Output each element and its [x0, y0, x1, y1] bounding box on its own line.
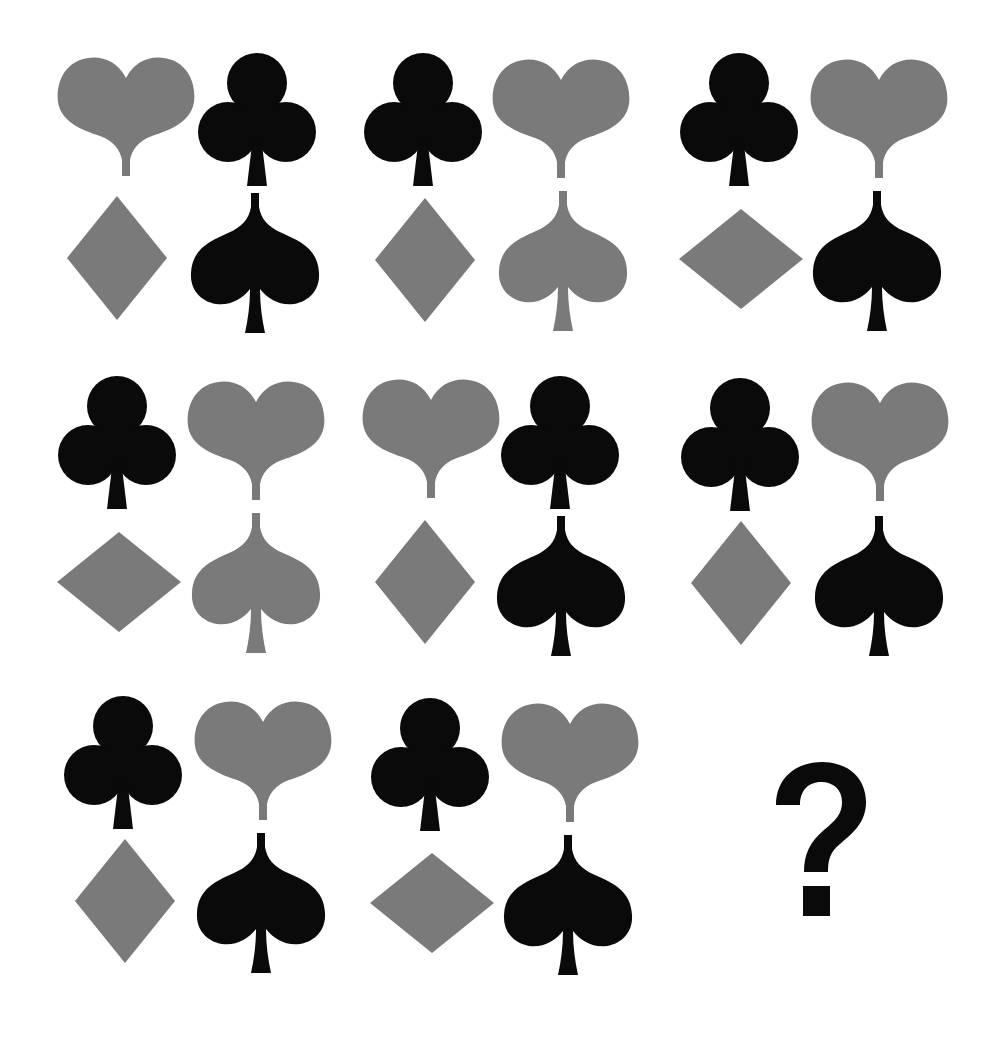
spade-icon: [498, 191, 628, 331]
puzzle-cell-r2c3: [676, 375, 946, 660]
club-icon: [679, 52, 799, 186]
club-icon: [63, 695, 183, 829]
spade-icon: [496, 516, 626, 656]
club-icon: [363, 52, 483, 186]
spade-icon: [190, 193, 320, 333]
diamond-icon: [375, 520, 475, 644]
puzzle-cell-r2c2: [360, 375, 630, 660]
heart-icon: [810, 381, 950, 501]
spade-icon: [196, 833, 326, 973]
spade-icon: [812, 191, 942, 331]
spade-icon: [503, 835, 633, 975]
puzzle-cell-r3c2: [366, 695, 636, 980]
puzzle-cell-r1c2: [360, 50, 630, 335]
club-icon: [370, 697, 490, 831]
heart-icon: [809, 58, 949, 178]
spade-icon: [191, 513, 321, 653]
heart-icon: [500, 702, 640, 822]
heart-icon: [56, 56, 196, 176]
club-icon: [500, 375, 620, 509]
diamond-icon: [67, 196, 167, 320]
puzzle-cell-r1c1: [52, 50, 322, 335]
heart-icon: [491, 58, 631, 178]
puzzle-cell-r3c1: [60, 695, 330, 980]
club-icon: [680, 377, 800, 511]
spade-icon: [814, 516, 944, 656]
club-icon: [197, 52, 317, 186]
club-icon: [57, 375, 177, 509]
diamond-icon: [75, 839, 175, 963]
diamond-icon: [691, 521, 791, 645]
heart-icon: [186, 380, 326, 500]
diamond-icon: [57, 532, 181, 632]
puzzle-cell-r2c1: [55, 375, 325, 660]
puzzle-cell-r1c3: [676, 50, 946, 335]
diamond-icon: [370, 853, 494, 953]
heart-icon: [361, 378, 501, 498]
question-mark-icon: ?: [770, 760, 870, 920]
diamond-icon: [375, 198, 475, 322]
heart-icon: [193, 700, 333, 820]
diamond-icon: [679, 209, 803, 309]
